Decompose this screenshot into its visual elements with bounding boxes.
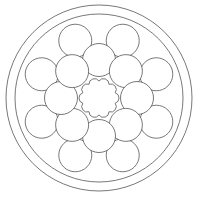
inner-circle — [56, 55, 89, 88]
mandala-drawing — [0, 0, 200, 197]
mandala-svg — [0, 0, 200, 197]
center-flower — [79, 79, 119, 118]
